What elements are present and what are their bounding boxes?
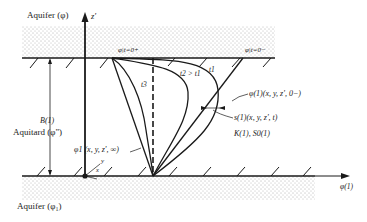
leader-initial-head [232,94,248,101]
label-y-axis: y [101,158,104,165]
label-t2-gt-t1: t2 > t1 [180,70,200,78]
label-initial-head: φ(1)(x, y, z', 0−) [249,90,301,98]
bottom-aquifer-band [22,176,315,200]
z-axis-arrowhead [82,12,89,22]
label-properties: K(1), S0(1) [234,130,270,138]
label-x-axis: x [96,167,99,174]
steady-state-line [112,58,153,176]
label-steady-state: φ1 (x, y, z', ∞) [74,146,119,154]
phi-axis-arrowhead [341,173,350,179]
label-aquifer-bottom: Aquifer (φ₁) [17,202,62,211]
label-t3: t3 [141,81,147,89]
label-t1: t1 [209,66,215,74]
label-drawdown: s(1)(x, y, z', t) [234,114,277,122]
aquitard-diagram [0,0,367,222]
label-aquitard: Aquitard (φ") [13,128,62,137]
label-phi-t0minus: φ|t=0− [245,47,266,54]
label-thickness: B(1) [40,117,54,125]
label-phi-axis: φ(1) [340,183,353,191]
top-aquifer-band [22,26,275,58]
bottom-hatches [37,167,311,176]
leader-steady-state [130,148,141,152]
label-aquifer-top: Aquifer (φ) [27,11,68,20]
label-z-axis: z' [91,12,96,21]
label-phi-t0plus: φ|t=0+ [118,47,139,54]
